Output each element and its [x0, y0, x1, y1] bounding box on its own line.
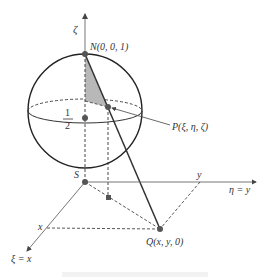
y-tick-label: y	[196, 169, 202, 180]
xi-axis	[27, 182, 85, 251]
point-n	[82, 51, 88, 57]
label-p: P(ξ, η, ζ)	[171, 121, 209, 133]
y-to-q-dashed	[160, 182, 200, 229]
label-s: S	[74, 169, 79, 180]
half-denominator: 2	[65, 120, 70, 131]
stereographic-projection-diagram: ζ N(0, 0, 1) 1 2 P(ξ, η, ζ) S y η = y x …	[0, 0, 270, 277]
s-to-q-dashed	[85, 182, 160, 229]
projection-line	[85, 54, 160, 229]
point-q	[157, 226, 163, 232]
label-n: N(0, 0, 1)	[89, 41, 129, 53]
xi-label: ξ = x	[11, 253, 32, 265]
label-q: Q(x, y, 0)	[146, 236, 184, 248]
eta-label: η = y	[229, 184, 251, 195]
caption-cutoff	[62, 272, 208, 277]
half-numerator: 1	[65, 107, 70, 118]
point-s	[82, 179, 88, 185]
point-p	[105, 104, 111, 110]
point-p-projection	[106, 195, 111, 200]
x-tick-label: x	[37, 221, 43, 232]
point-center	[82, 115, 88, 121]
x-to-q-dashed	[47, 228, 160, 229]
zeta-label: ζ	[73, 23, 79, 36]
